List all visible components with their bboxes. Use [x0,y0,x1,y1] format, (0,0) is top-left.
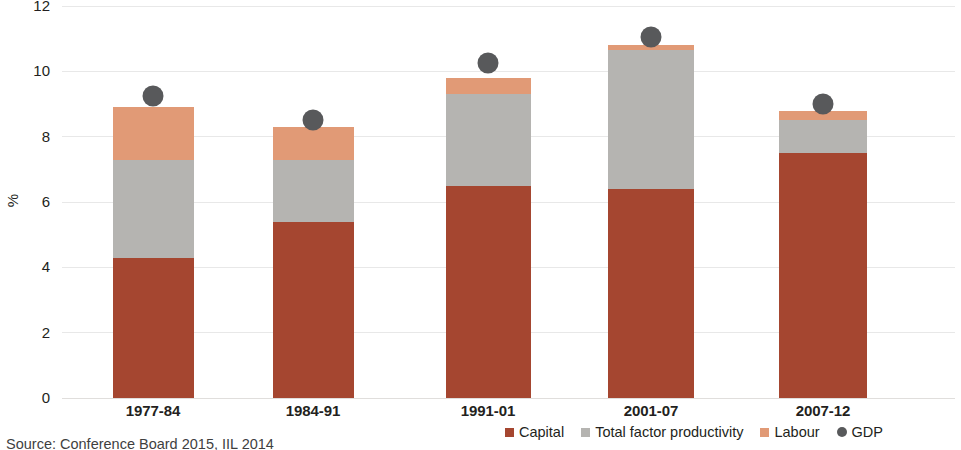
bar-segment-capital[interactable] [446,186,531,398]
source-note: Source: Conference Board 2015, IIL 2014 [6,436,274,450]
bar-segment-total-factor-productivity[interactable] [608,50,694,189]
bar-segment-labour[interactable] [446,78,531,94]
x-axis-tick-label: 1991-01 [461,402,515,419]
legend-label: Labour [774,424,819,440]
chart-container: % 0246810121977-841984-911991-012001-072… [0,0,961,450]
gdp-marker[interactable] [813,94,834,115]
y-axis-tick-label: 0 [4,390,50,405]
gdp-marker[interactable] [641,27,662,48]
y-axis-tick-label: 8 [4,129,50,144]
bar-segment-capital[interactable] [608,189,694,398]
bar-segment-total-factor-productivity[interactable] [113,160,194,258]
x-axis-tick-label: 1984-91 [286,402,340,419]
legend-label: GDP [852,424,883,440]
gdp-marker[interactable] [303,110,324,131]
gdp-marker[interactable] [478,53,499,74]
y-axis-tick-label: 2 [4,325,50,340]
bar-segment-labour[interactable] [273,127,354,160]
legend-item-capital[interactable]: Capital [505,424,564,440]
bar-segment-capital[interactable] [113,258,194,398]
legend-label: Total factor productivity [595,424,743,440]
bar-segment-capital[interactable] [273,222,354,398]
x-axis-tick-label: 2001-07 [624,402,678,419]
bar-segment-total-factor-productivity[interactable] [446,94,531,185]
legend-item-total-factor-productivity[interactable]: Total factor productivity [581,424,743,440]
y-axis-tick-label: 6 [4,194,50,209]
gdp-marker[interactable] [143,85,164,106]
legend-label: Capital [519,424,564,440]
x-axis-tick-label: 2007-12 [796,402,850,419]
bar-group[interactable] [779,6,867,398]
y-axis-tick-label: 4 [4,259,50,274]
y-axis-tick-label: 10 [4,63,50,78]
chart-legend: CapitalTotal factor productivityLabourGD… [505,424,883,440]
x-axis-tick-label: 1977-84 [126,402,180,419]
bar-group[interactable] [273,6,354,398]
legend-square-icon [760,428,769,437]
legend-circle-icon [837,427,847,437]
legend-item-gdp[interactable]: GDP [837,424,883,440]
bar-group[interactable] [113,6,194,398]
legend-item-labour[interactable]: Labour [760,424,819,440]
legend-square-icon [581,428,590,437]
y-axis-tick-label: 12 [4,0,50,13]
bar-segment-total-factor-productivity[interactable] [273,160,354,222]
bar-segment-total-factor-productivity[interactable] [779,120,867,153]
bar-segment-capital[interactable] [779,153,867,398]
bar-segment-labour[interactable] [113,107,194,159]
bar-group[interactable] [608,6,694,398]
plot-inner: 0246810121977-841984-911991-012001-07200… [62,6,955,398]
plot-area: 0246810121977-841984-911991-012001-07200… [62,6,955,398]
legend-square-icon [505,428,514,437]
